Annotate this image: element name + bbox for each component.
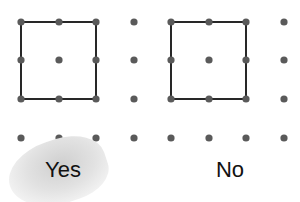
grid-dot xyxy=(242,18,249,25)
grid-dot xyxy=(130,18,137,25)
grid-dot xyxy=(167,18,174,25)
yes-option[interactable]: Yes xyxy=(45,157,81,183)
grid-dot xyxy=(280,56,287,63)
grid-dot xyxy=(17,18,24,25)
grid-dot xyxy=(242,56,249,63)
grid-dot xyxy=(92,56,99,63)
grid-dot xyxy=(130,56,137,63)
grid-dot xyxy=(55,95,62,102)
grid-dot xyxy=(55,56,62,63)
no-option[interactable]: No xyxy=(216,157,244,183)
grid-dot xyxy=(242,134,249,141)
grid-dot xyxy=(242,95,249,102)
grid-dot xyxy=(130,134,137,141)
grid-dot xyxy=(17,56,24,63)
grid-dot xyxy=(167,134,174,141)
grid-dot xyxy=(167,95,174,102)
grid-dot xyxy=(92,95,99,102)
grid-dot xyxy=(280,95,287,102)
grid-dot xyxy=(205,18,212,25)
grid-dot xyxy=(17,95,24,102)
grid-dot xyxy=(280,134,287,141)
grid-dot xyxy=(205,134,212,141)
grid-dot xyxy=(130,95,137,102)
grid-dot xyxy=(55,18,62,25)
grid-dot xyxy=(167,56,174,63)
grid-dot xyxy=(205,56,212,63)
grid-dot xyxy=(17,134,24,141)
grid-dot xyxy=(205,95,212,102)
grid-dot xyxy=(92,18,99,25)
dot-grid-question: Yes No xyxy=(0,0,300,202)
grid-dot xyxy=(280,18,287,25)
